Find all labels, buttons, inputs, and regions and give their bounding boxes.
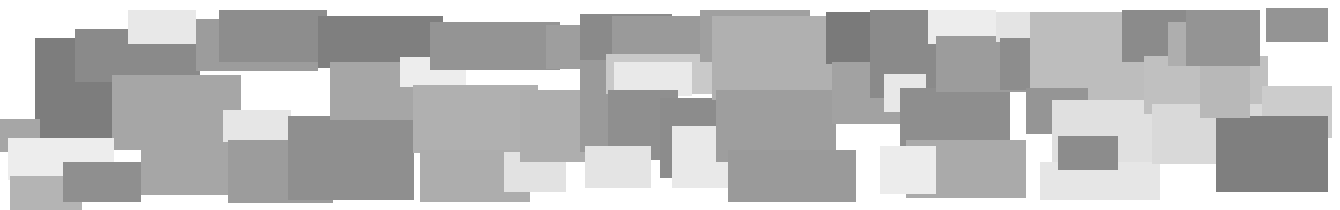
mosaic-rect — [223, 110, 291, 142]
mosaic-rect — [1000, 38, 1032, 90]
mosaic-rect — [1266, 8, 1328, 42]
mosaic-rect — [63, 162, 141, 202]
mosaic-rect — [612, 16, 714, 54]
mosaic-rect — [288, 116, 414, 200]
mosaic-rect — [430, 22, 560, 70]
mosaic-rect — [880, 146, 936, 194]
mosaic-rect — [585, 146, 651, 188]
mosaic-rect — [1216, 116, 1328, 192]
mosaic-rect — [1058, 136, 1118, 170]
mosaic-rect — [219, 10, 327, 62]
mosaic-rect — [1200, 66, 1250, 118]
mosaic-rect — [728, 150, 856, 202]
mosaic-canvas — [0, 0, 1340, 210]
mosaic-rect — [128, 10, 196, 44]
mosaic-rect — [712, 16, 840, 100]
mosaic-rect — [1186, 10, 1260, 66]
